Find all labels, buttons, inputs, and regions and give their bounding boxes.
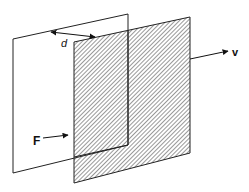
velocity-label: v: [232, 46, 239, 58]
force-label: F: [33, 134, 40, 148]
velocity-arrow: [190, 51, 228, 59]
moving-plate: [74, 17, 190, 183]
distance-label: d: [61, 37, 68, 49]
parallel-plates-diagram: d v F: [0, 0, 249, 192]
